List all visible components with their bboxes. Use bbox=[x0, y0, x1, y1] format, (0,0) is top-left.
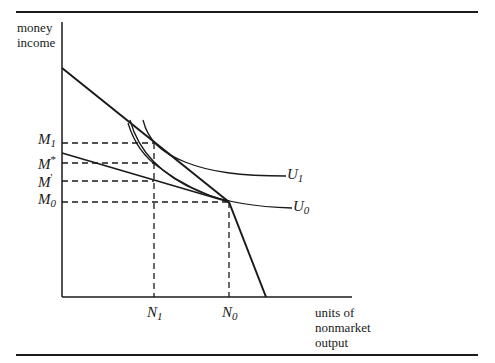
x-label-line2: nonmarket bbox=[315, 320, 371, 335]
tick-mprime: M' bbox=[38, 171, 52, 191]
y-label-line2: income bbox=[17, 35, 55, 50]
curve-label-u0: U0 bbox=[293, 198, 309, 216]
tick-n1: N1 bbox=[147, 304, 163, 322]
tick-mstar: M* bbox=[38, 153, 56, 173]
u1-curve bbox=[143, 120, 286, 176]
shallow-budget-line bbox=[62, 153, 229, 202]
y-axis-label: money income bbox=[17, 20, 55, 50]
x-label-line1: units of bbox=[315, 305, 371, 320]
kinked-segment bbox=[229, 202, 266, 297]
curve-label-u1: U1 bbox=[287, 166, 303, 184]
tick-m1: M1 bbox=[38, 131, 56, 149]
tick-m0: M0 bbox=[38, 191, 56, 209]
steep-budget-line bbox=[62, 68, 229, 202]
y-label-line1: money bbox=[17, 20, 55, 35]
diagram-canvas bbox=[0, 0, 495, 363]
x-axis-label: units of nonmarket output bbox=[315, 305, 371, 350]
x-label-line3: output bbox=[315, 335, 371, 350]
tick-n0: N0 bbox=[222, 304, 238, 322]
